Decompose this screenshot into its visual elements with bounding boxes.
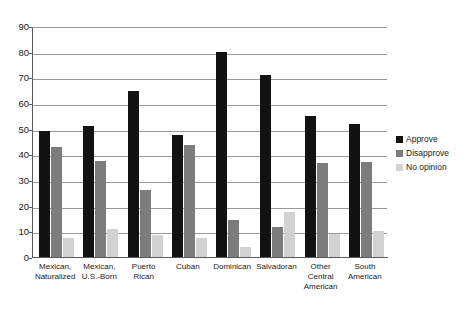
bar — [95, 161, 106, 257]
y-tick-label: 0 — [3, 253, 29, 263]
x-axis-label: Cuban — [166, 262, 210, 292]
y-tick-label: 30 — [3, 176, 29, 186]
bar-group — [343, 27, 387, 257]
bar-stack — [210, 27, 254, 257]
legend-item: Approve — [396, 134, 463, 145]
y-tick-mark — [29, 258, 32, 259]
bar — [228, 220, 239, 257]
x-axis-line — [32, 257, 388, 258]
legend-swatch-icon — [396, 164, 403, 171]
x-axis-label: PuertoRican — [122, 262, 166, 292]
bar-group — [254, 27, 298, 257]
bar-group — [122, 27, 166, 257]
bar-group — [166, 27, 210, 257]
bar — [172, 135, 183, 257]
bar — [83, 126, 94, 257]
bar-stack — [33, 27, 77, 257]
bar-group — [77, 27, 121, 257]
bar-stack — [254, 27, 298, 257]
legend: ApproveDisapproveNo opinion — [396, 134, 463, 176]
bar — [373, 231, 384, 257]
bar — [329, 234, 340, 257]
legend-item: Disapprove — [396, 148, 463, 159]
bar — [39, 131, 50, 257]
bar — [305, 116, 316, 257]
bar — [184, 145, 195, 257]
x-axis-label: SouthAmerican — [343, 262, 387, 292]
x-axis-label: OtherCentralAmerican — [299, 262, 343, 292]
x-axis-label: Mexican,Naturalized — [33, 262, 77, 292]
y-tick-label: 10 — [3, 228, 29, 238]
legend-label: Disapprove — [406, 149, 449, 158]
legend-item: No opinion — [396, 162, 463, 173]
y-tick-label: 20 — [3, 202, 29, 212]
y-tick-label: 90 — [3, 22, 29, 32]
y-tick-label: 50 — [3, 125, 29, 135]
legend-swatch-icon — [396, 150, 403, 157]
bar — [272, 227, 283, 257]
bar — [317, 163, 328, 257]
bar — [216, 52, 227, 257]
bar — [140, 190, 151, 257]
bar-group — [210, 27, 254, 257]
bar-group — [299, 27, 343, 257]
y-tick-label: 40 — [3, 151, 29, 161]
x-axis-labels: Mexican,NaturalizedMexican,U.S.-BornPuer… — [33, 262, 387, 292]
bar — [196, 238, 207, 257]
y-tick-label: 80 — [3, 48, 29, 58]
y-tick-label: 60 — [3, 99, 29, 109]
legend-swatch-icon — [396, 136, 403, 143]
bar — [128, 91, 139, 257]
x-axis-label: Mexican,U.S.-Born — [77, 262, 121, 292]
y-axis: 0102030405060708090 — [0, 27, 29, 258]
bar — [260, 75, 271, 257]
bar — [152, 235, 163, 257]
bar-stack — [299, 27, 343, 257]
bar-stack — [122, 27, 166, 257]
bar — [107, 229, 118, 257]
bar — [63, 238, 74, 257]
bar-chart: 0102030405060708090 Mexican,NaturalizedM… — [0, 0, 463, 313]
x-axis-label: Dominican — [210, 262, 254, 292]
x-axis-label: Salvadoran — [254, 262, 298, 292]
bar-groups — [33, 27, 387, 257]
bar — [240, 247, 251, 257]
bar — [361, 162, 372, 257]
legend-label: No opinion — [406, 163, 447, 172]
bar-stack — [343, 27, 387, 257]
bar — [284, 212, 295, 257]
legend-label: Approve — [406, 135, 438, 144]
bar-stack — [77, 27, 121, 257]
bar-stack — [166, 27, 210, 257]
bar-group — [33, 27, 77, 257]
bar — [349, 124, 360, 257]
bar — [51, 147, 62, 257]
y-tick-label: 70 — [3, 74, 29, 84]
